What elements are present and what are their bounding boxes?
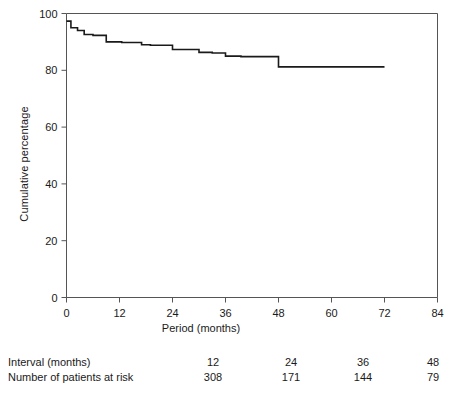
risk-table-cell: 171 bbox=[269, 371, 313, 383]
x-tick-label: 72 bbox=[378, 307, 390, 319]
y-tick-label: 0 bbox=[51, 292, 57, 304]
x-tick-label: 60 bbox=[325, 307, 337, 319]
chart-svg: 020406080100012243648607284 bbox=[0, 0, 474, 345]
y-tick-label: 100 bbox=[39, 8, 57, 20]
chart-plot-container: Cumulative percentage 020406080100012243… bbox=[0, 0, 474, 345]
x-tick-label: 48 bbox=[272, 307, 284, 319]
risk-table-row: Interval (months)1224364860 bbox=[8, 356, 468, 371]
risk-table-cell: 24 bbox=[269, 356, 313, 368]
risk-table-row-label: Number of patients at risk bbox=[8, 371, 133, 383]
x-tick-label: 12 bbox=[113, 307, 125, 319]
risk-table-cell: 48 bbox=[411, 356, 455, 368]
survival-curve-layer bbox=[67, 21, 385, 67]
y-tick-label: 80 bbox=[45, 64, 57, 76]
tick-labels-layer: 020406080100012243648607284 bbox=[39, 8, 443, 319]
risk-table-row: Number of patients at risk3081711447932 bbox=[8, 371, 468, 386]
risk-table-cell: 144 bbox=[341, 371, 385, 383]
y-tick-label: 40 bbox=[45, 178, 57, 190]
survival-step-curve bbox=[67, 21, 385, 67]
numbers-at-risk-table: Interval (months)1224364860Number of pat… bbox=[8, 356, 468, 386]
x-tick-label: 36 bbox=[219, 307, 231, 319]
risk-table-cell: 308 bbox=[191, 371, 235, 383]
risk-table-cell: 12 bbox=[191, 356, 235, 368]
x-tick-label: 84 bbox=[431, 307, 443, 319]
risk-table-cell: 79 bbox=[411, 371, 455, 383]
y-tick-label: 20 bbox=[45, 235, 57, 247]
x-tick-label: 24 bbox=[166, 307, 178, 319]
x-axis-title: Period (months) bbox=[0, 322, 474, 334]
x-tick-label: 0 bbox=[63, 307, 69, 319]
y-tick-label: 60 bbox=[45, 121, 57, 133]
risk-table-cell: 36 bbox=[341, 356, 385, 368]
survival-chart-figure: Cumulative percentage 020406080100012243… bbox=[0, 0, 474, 402]
x-axis-title-text: Period (months) bbox=[162, 322, 240, 334]
risk-table-row-label: Interval (months) bbox=[8, 356, 91, 368]
